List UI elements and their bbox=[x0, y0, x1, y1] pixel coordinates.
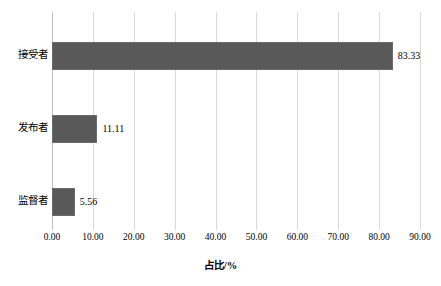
x-tick-label: 50.00 bbox=[246, 233, 267, 243]
x-tick-label: 70.00 bbox=[328, 233, 349, 243]
x-tick-label: 30.00 bbox=[164, 233, 185, 243]
bar-value-label: 5.56 bbox=[80, 197, 98, 207]
x-tick-label: 40.00 bbox=[205, 233, 226, 243]
x-tick-label: 10.00 bbox=[82, 233, 103, 243]
bar-row: 83.33 bbox=[52, 42, 420, 70]
bar bbox=[52, 188, 75, 216]
bar bbox=[52, 115, 97, 143]
x-axis-tick-labels: 0.0010.0020.0030.0040.0050.0060.0070.008… bbox=[52, 233, 420, 249]
gridline bbox=[420, 12, 421, 230]
x-tick-label: 60.00 bbox=[287, 233, 308, 243]
x-tick-label: 20.00 bbox=[123, 233, 144, 243]
x-tick-label: 0.00 bbox=[44, 233, 61, 243]
category-label: 监督者 bbox=[0, 196, 48, 207]
category-label: 发布者 bbox=[0, 123, 48, 134]
bar-value-label: 11.11 bbox=[102, 124, 124, 134]
bar-value-label: 83.33 bbox=[398, 51, 421, 61]
bar-row: 5.56 bbox=[52, 188, 420, 216]
x-tick-label: 90.00 bbox=[409, 233, 430, 243]
bar-chart: 接受者发布者监督者 83.3311.115.56 0.0010.0020.003… bbox=[0, 0, 441, 286]
bar bbox=[52, 42, 393, 70]
x-axis-title: 占比/% bbox=[0, 261, 441, 272]
x-tick-label: 80.00 bbox=[368, 233, 389, 243]
y-axis-category-labels: 接受者发布者监督者 bbox=[0, 12, 48, 230]
bar-row: 11.11 bbox=[52, 115, 420, 143]
category-label: 接受者 bbox=[0, 50, 48, 61]
plot-area: 83.3311.115.56 bbox=[52, 12, 420, 230]
